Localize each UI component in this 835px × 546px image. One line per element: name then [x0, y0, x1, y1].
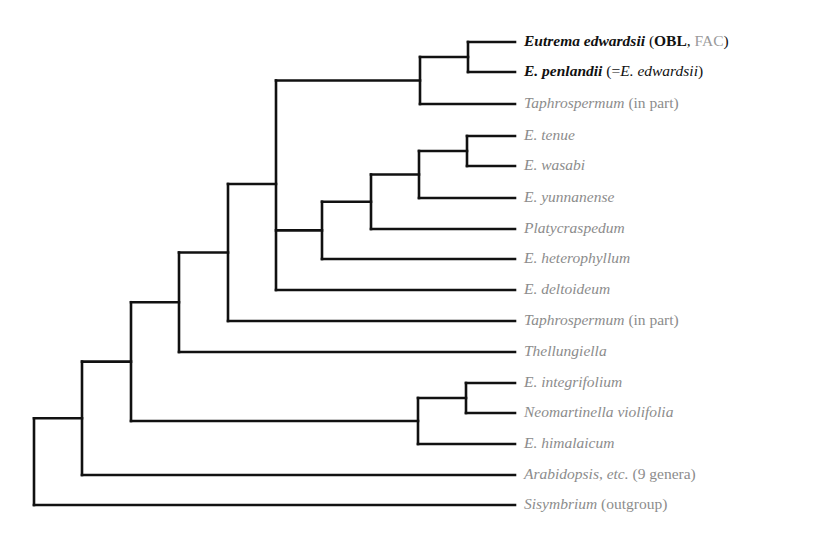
leaf-label-sisym: Sisymbrium (outgroup)	[524, 495, 667, 513]
label-part: E. heterophyllum	[524, 249, 630, 266]
leaf-label-eutrema: Eutrema edwardsii (OBL, FAC)	[524, 32, 729, 50]
label-part: Thellungiella	[524, 342, 607, 359]
leaf-label-platy: Platycraspedum	[524, 219, 625, 237]
leaf-label-integ: E. integrifolium	[524, 373, 622, 391]
leaf-label-himal: E. himalaicum	[524, 434, 614, 452]
leaf-label-tenue: E. tenue	[524, 126, 575, 144]
leaf-label-penlandii: E. penlandii (=E. edwardsii)	[524, 62, 703, 80]
label-part: E. edwardsii	[620, 62, 698, 79]
label-part: (outgroup)	[597, 495, 667, 512]
leaf-labels: Eutrema edwardsii (OBL, FAC)E. penlandii…	[0, 0, 835, 546]
label-part: ,	[687, 32, 695, 49]
leaf-label-arabid: Arabidopsis, etc. (9 genera)	[524, 465, 696, 483]
label-part: E. wasabi	[524, 156, 585, 173]
label-part: (=	[602, 62, 620, 79]
label-part: E. yunnanense	[524, 188, 614, 205]
label-part: )	[698, 62, 703, 79]
label-part: (in part)	[625, 94, 679, 111]
label-part: (	[645, 32, 654, 49]
leaf-label-taphro2: Taphrospermum (in part)	[524, 311, 679, 329]
label-part: E. himalaicum	[524, 434, 614, 451]
label-part: Platycraspedum	[524, 219, 625, 236]
leaf-label-neomar: Neomartinella violifolia	[524, 403, 673, 421]
label-part: E. penlandii	[524, 62, 602, 79]
label-part: Arabidopsis, etc.	[524, 465, 629, 482]
label-part: Eutrema edwardsii	[524, 32, 645, 49]
leaf-label-yunnan: E. yunnanense	[524, 188, 614, 206]
leaf-label-delto: E. deltoideum	[524, 280, 610, 298]
label-part: (9 genera)	[629, 465, 696, 482]
leaf-label-thell: Thellungiella	[524, 342, 607, 360]
label-part: Taphrospermum	[524, 94, 625, 111]
label-part: )	[724, 32, 729, 49]
label-part: E. integrifolium	[524, 373, 622, 390]
label-part: E. tenue	[524, 126, 575, 143]
label-part: Taphrospermum	[524, 311, 625, 328]
label-part: Neomartinella violifolia	[524, 403, 673, 420]
leaf-label-wasabi: E. wasabi	[524, 156, 585, 174]
leaf-label-taphro1: Taphrospermum (in part)	[524, 94, 679, 112]
label-part: Sisymbrium	[524, 495, 597, 512]
label-part: (in part)	[625, 311, 679, 328]
label-part: FAC	[695, 32, 724, 49]
label-part: E. deltoideum	[524, 280, 610, 297]
label-part: OBL	[654, 32, 687, 49]
leaf-label-hetero: E. heterophyllum	[524, 249, 630, 267]
